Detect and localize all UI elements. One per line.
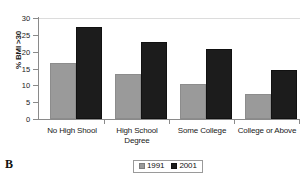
y-tick-mark: [33, 119, 38, 120]
legend-swatch-icon-1991: [139, 163, 145, 169]
x-category-label-line: Degree: [99, 136, 175, 146]
y-tick-label: 30: [8, 15, 30, 23]
bar-2001-some-college: [206, 49, 232, 119]
x-category-label-line: College or Above: [228, 126, 306, 136]
x-separator-tick: [299, 119, 300, 124]
legend-label-2001: 2001: [179, 162, 196, 170]
plot-area: [38, 18, 300, 119]
legend-label-1991: 1991: [147, 162, 164, 170]
bar-1991-high-school-degree: [115, 74, 141, 119]
x-separator-tick: [104, 119, 105, 124]
x-category-label-3: College or Above: [228, 126, 306, 136]
bar-1991-some-college: [180, 84, 206, 119]
bar-2001-college-or-above: [271, 70, 297, 119]
bar-2001-high-school-degree: [141, 42, 167, 119]
y-tick-label: 5: [8, 99, 30, 107]
chart-legend: 1991 2001: [133, 160, 203, 173]
legend-swatch-icon-2001: [171, 163, 177, 169]
x-separator-tick: [169, 119, 170, 124]
bar-2001-no-high-school: [76, 27, 102, 119]
chart-figure: % BMI >30 0 5 10 15 20 25 30 No High Sho…: [0, 0, 306, 180]
legend-item-1991: 1991: [139, 162, 164, 170]
panel-letter: B: [5, 158, 13, 170]
bar-1991-college-or-above: [245, 94, 271, 119]
y-tick-label: 10: [8, 82, 30, 90]
legend-item-2001: 2001: [171, 162, 196, 170]
y-tick-label: 15: [8, 66, 30, 74]
y-tick-label: 20: [8, 49, 30, 57]
x-separator-tick: [234, 119, 235, 124]
y-tick-label: 0: [8, 116, 30, 124]
bar-1991-no-high-school: [50, 63, 76, 119]
y-tick-label: 25: [8, 32, 30, 40]
